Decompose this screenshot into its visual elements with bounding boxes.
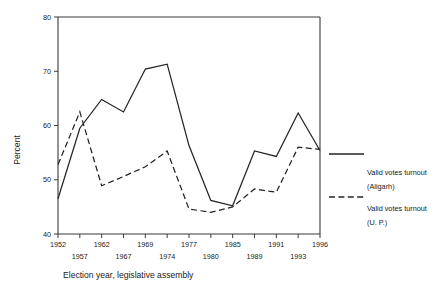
y-axis-ticks: 4050607080 (43, 13, 58, 239)
y-tick-label: 50 (43, 175, 51, 184)
legend-label-up-line2: (U. P.) (367, 218, 387, 227)
x-tick-label: 1969 (137, 240, 153, 249)
series-line-aligarh (58, 64, 320, 206)
y-tick-label: 80 (43, 13, 51, 22)
x-tick-label: 1991 (268, 240, 284, 249)
y-tick-label: 60 (43, 121, 51, 130)
y-tick-label: 70 (43, 67, 51, 76)
x-tick-label: 1980 (203, 252, 219, 261)
chart-figure: 4050607080 19521957196219671969197419771… (0, 0, 436, 288)
x-tick-label: 1962 (94, 240, 110, 249)
x-tick-label: 1952 (50, 240, 66, 249)
x-axis-title: Election year, legislative assembly (63, 270, 194, 280)
series-line-up (58, 112, 320, 212)
legend-label-aligarh-line1: Valid votes turnout (367, 168, 427, 177)
x-axis-ticks: 1952195719621967196919741977198019851989… (50, 234, 328, 261)
y-axis-title: Percent (12, 135, 22, 165)
x-tick-label: 1957 (72, 252, 88, 261)
x-tick-label: 1974 (159, 252, 175, 261)
x-tick-label: 1977 (181, 240, 197, 249)
x-tick-label: 1985 (225, 240, 241, 249)
line-chart: 4050607080 19521957196219671969197419771… (0, 0, 436, 288)
chart-legend: Valid votes turnout (Aligarh) Valid vote… (329, 154, 427, 227)
chart-axes (58, 17, 320, 234)
x-tick-label: 1989 (247, 252, 263, 261)
legend-label-up-line1: Valid votes turnout (367, 204, 427, 213)
x-tick-label: 1993 (290, 252, 306, 261)
x-tick-label: 1967 (116, 252, 132, 261)
y-tick-label: 40 (43, 230, 51, 239)
x-tick-label: 1996 (312, 240, 328, 249)
chart-series-group (58, 64, 320, 212)
legend-label-aligarh-line2: (Aligarh) (367, 182, 395, 191)
